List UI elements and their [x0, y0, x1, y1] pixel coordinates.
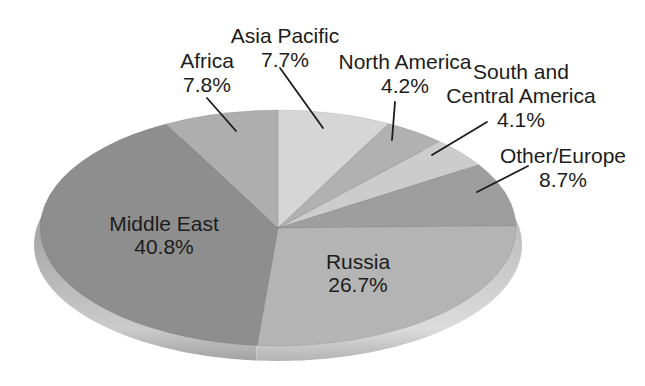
- slice-name-asia-pacific: Asia Pacific: [231, 24, 340, 47]
- slice-pct-middle-east: 40.8%: [134, 235, 194, 258]
- slice-name-south-and-central-america: South and: [473, 60, 569, 83]
- slice-name-middle-east: Middle East: [109, 212, 219, 235]
- pie-chart-svg: Asia Pacific7.7%North America4.2%South a…: [0, 0, 645, 386]
- slice-pct-russia: 26.7%: [328, 273, 388, 296]
- leader-line-south-and-central-america: [432, 122, 487, 155]
- slice-pct-north-america: 4.2%: [381, 74, 429, 97]
- slice-name-other-europe: Other/Europe: [500, 144, 626, 167]
- slice-name-south-and-central-america: Central America: [446, 84, 596, 107]
- slice-label-group-russia: Russia26.7%: [326, 250, 391, 296]
- slice-pct-other-europe: 8.7%: [539, 168, 587, 191]
- page: { "figure": { "background": "#ffffff", "…: [0, 0, 645, 386]
- slice-label-group-south-and-central-america: South andCentral America4.1%: [432, 60, 596, 155]
- slice-pct-africa: 7.8%: [183, 73, 231, 96]
- slice-name-north-america: North America: [338, 50, 471, 73]
- slice-name-africa: Africa: [180, 49, 234, 72]
- slice-pct-south-and-central-america: 4.1%: [497, 108, 545, 131]
- slice-name-russia: Russia: [326, 250, 391, 273]
- pie-chart-figure: Asia Pacific7.7%North America4.2%South a…: [0, 0, 645, 386]
- slice-pct-asia-pacific: 7.7%: [261, 48, 309, 71]
